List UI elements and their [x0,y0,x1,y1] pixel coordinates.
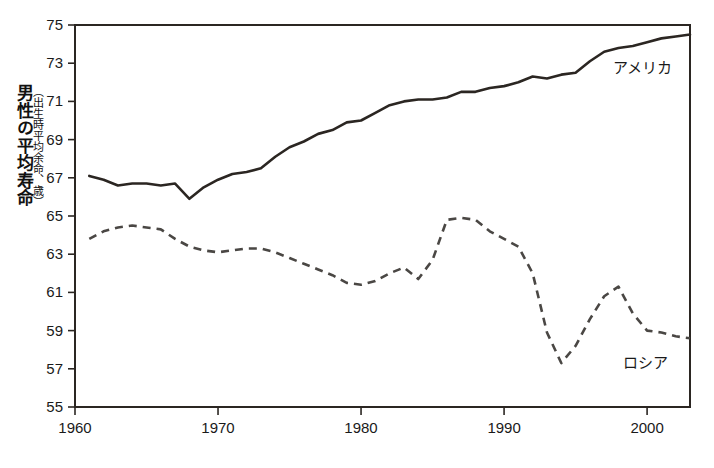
y-tick-label: 71 [46,92,63,109]
y-tick-label: 67 [46,169,63,186]
series-label-russia: ロシア [623,354,668,372]
y-tick-label: 57 [46,360,63,377]
y-tick-label: 75 [46,16,63,33]
footer-caption [0,459,714,468]
x-tick-label: 1970 [201,419,234,436]
x-tick-label: 1960 [58,419,91,436]
y-tick-label: 73 [46,54,63,71]
series-label-america: アメリカ [613,59,672,77]
x-tick-label: 1980 [344,419,377,436]
y-tick-label: 55 [46,398,63,415]
y-axis-ticks: 5557596163656769717375 [46,16,75,415]
y-tick-label: 61 [46,283,63,300]
y-tick-label: 59 [46,322,63,339]
line-chart-plot: 5557596163656769717375 19601970198019902… [0,0,714,468]
x-tick-label: 2000 [630,419,663,436]
x-tick-label: 1990 [487,419,520,436]
chart-figure: 男性の平均寿命 （出生時平均余命、歳） 55575961636567697173… [0,0,714,468]
y-tick-label: 63 [46,245,63,262]
x-axis-ticks: 19601970198019902000 [58,407,663,436]
y-tick-label: 65 [46,207,63,224]
plot-border [75,25,690,407]
y-tick-label: 69 [46,131,63,148]
